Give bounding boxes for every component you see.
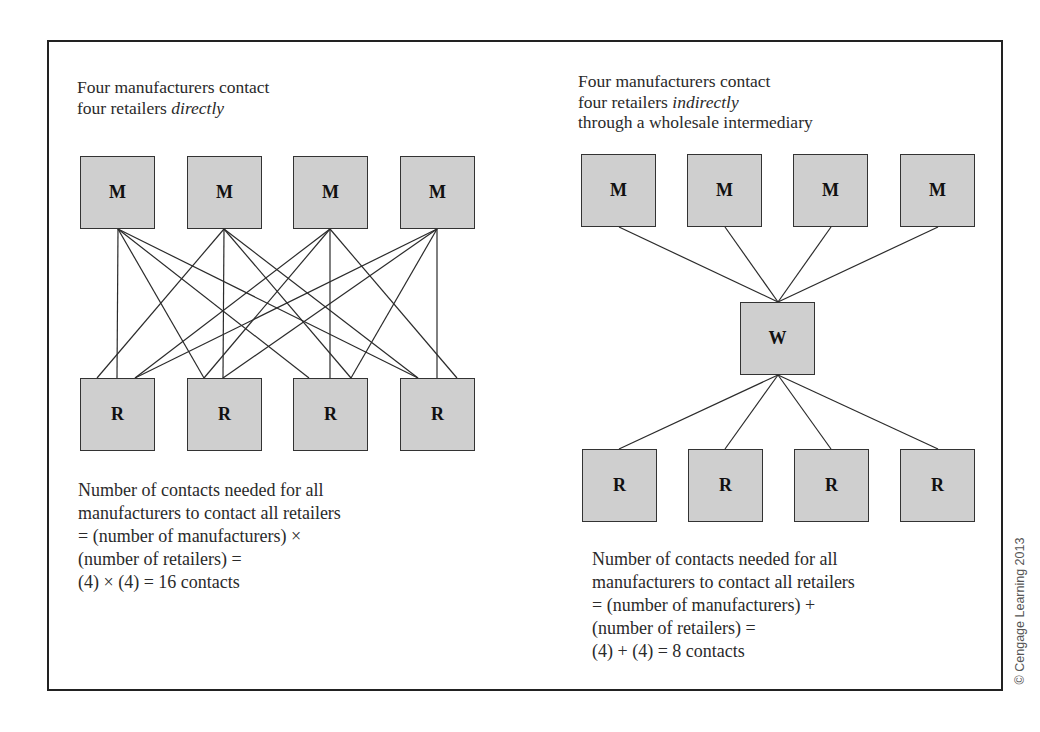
right-retailer-node-2: R bbox=[688, 449, 763, 522]
left-formula-line-5: (4) × (4) = 16 contacts bbox=[78, 571, 341, 594]
right-title-emphasis: indirectly bbox=[672, 92, 738, 112]
left-formula-line-1: Number of contacts needed for all bbox=[78, 479, 341, 502]
left-manufacturer-node-3: M bbox=[293, 156, 368, 229]
right-formula-line-2: manufacturers to contact all retailers bbox=[592, 571, 855, 594]
left-title-emphasis: directly bbox=[171, 98, 224, 118]
left-formula: Number of contacts needed for all manufa… bbox=[78, 479, 341, 594]
left-formula-line-3: = (number of manufacturers) × bbox=[78, 525, 341, 548]
left-title-line-2: four retailers directly bbox=[77, 98, 269, 119]
left-manufacturer-node-4: M bbox=[400, 156, 475, 229]
right-title-line-3: through a wholesale intermediary bbox=[578, 112, 813, 133]
right-retailer-node-1: R bbox=[582, 449, 657, 522]
right-formula-line-3: = (number of manufacturers) + bbox=[592, 594, 855, 617]
right-formula-line-1: Number of contacts needed for all bbox=[592, 548, 855, 571]
left-manufacturer-node-1: M bbox=[80, 156, 155, 229]
right-manufacturer-node-3: M bbox=[793, 154, 868, 227]
left-formula-line-4: (number of retailers) = bbox=[78, 548, 341, 571]
right-formula: Number of contacts needed for all manufa… bbox=[592, 548, 855, 663]
copyright-credit: © Cengage Learning 2013 bbox=[1013, 538, 1027, 685]
left-retailer-node-4: R bbox=[400, 378, 475, 451]
right-retailer-node-3: R bbox=[794, 449, 869, 522]
left-title-line-1: Four manufacturers contact bbox=[77, 77, 269, 98]
left-manufacturer-node-2: M bbox=[187, 156, 262, 229]
left-panel-title: Four manufacturers contact four retailer… bbox=[77, 77, 269, 118]
left-retailer-node-2: R bbox=[187, 378, 262, 451]
left-retailer-node-1: R bbox=[80, 378, 155, 451]
right-manufacturer-node-1: M bbox=[581, 154, 656, 227]
right-formula-line-5: (4) + (4) = 8 contacts bbox=[592, 640, 855, 663]
left-retailer-node-3: R bbox=[293, 378, 368, 451]
right-panel-title: Four manufacturers contact four retailer… bbox=[578, 71, 813, 133]
right-title-prefix: four retailers bbox=[578, 92, 672, 112]
right-title-line-1: Four manufacturers contact bbox=[578, 71, 813, 92]
right-manufacturer-node-2: M bbox=[687, 154, 762, 227]
right-manufacturer-node-4: M bbox=[900, 154, 975, 227]
right-retailer-node-4: R bbox=[900, 449, 975, 522]
wholesaler-node: W bbox=[740, 302, 815, 375]
left-title-prefix: four retailers bbox=[77, 98, 171, 118]
left-formula-line-2: manufacturers to contact all retailers bbox=[78, 502, 341, 525]
right-formula-line-4: (number of retailers) = bbox=[592, 617, 855, 640]
right-title-line-2: four retailers indirectly bbox=[578, 92, 813, 113]
